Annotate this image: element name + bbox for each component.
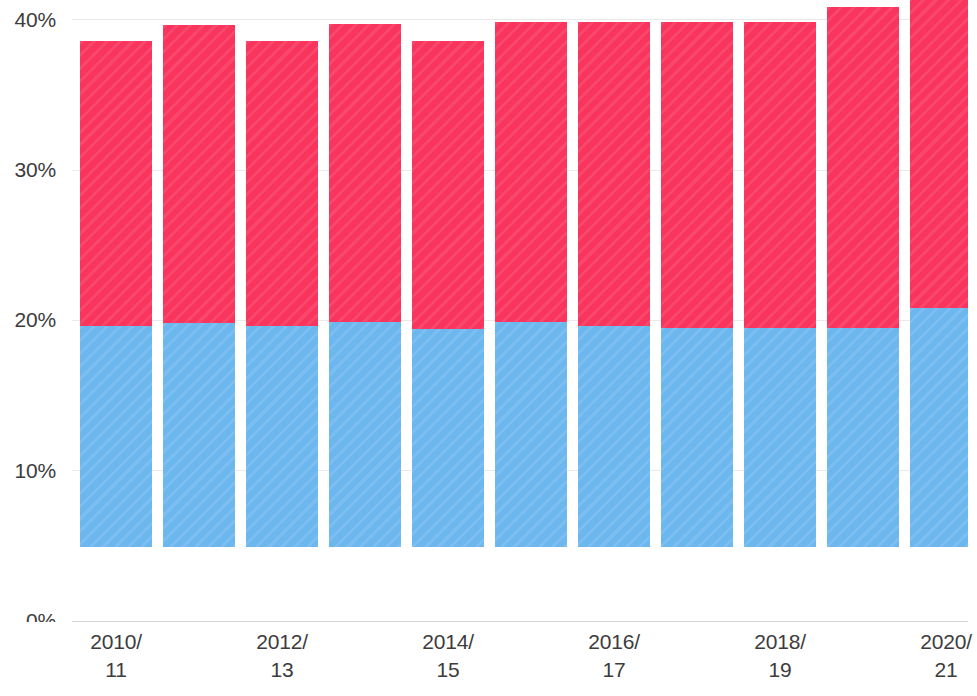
bar-segment-upper[interactable]	[246, 41, 318, 327]
x-axis: 2010/112012/132014/152016/172018/192020/…	[0, 622, 968, 696]
x-axis-tick-label-line1: 2020/	[920, 630, 972, 653]
bar-2015-16[interactable]	[495, 22, 567, 547]
bar-segment-lower[interactable]	[661, 328, 733, 547]
bar-segment-lower[interactable]	[910, 308, 968, 547]
bar-segment-lower[interactable]	[827, 328, 899, 547]
bar-2012-13[interactable]	[246, 41, 318, 548]
plot-area: 0%10%20%30%40%	[0, 0, 968, 622]
bar-segment-upper[interactable]	[163, 25, 235, 323]
bar-segment-lower[interactable]	[495, 322, 567, 547]
bar-segment-upper[interactable]	[910, 0, 968, 308]
x-axis-tick-label-line2: 21	[886, 656, 977, 684]
x-axis-tick-label-line2: 13	[222, 656, 342, 684]
bar-2011-12[interactable]	[163, 25, 235, 547]
x-axis-tick-label-line1: 2016/	[588, 630, 640, 653]
bar-segment-upper[interactable]	[744, 22, 816, 327]
bar-segment-lower[interactable]	[80, 326, 152, 547]
bar-2018-19[interactable]	[744, 22, 816, 547]
x-axis-tick-label-line2: 15	[388, 656, 508, 684]
bar-2014-15[interactable]	[412, 41, 484, 548]
bar-segment-upper[interactable]	[412, 41, 484, 330]
x-axis-tick-label-line2: 19	[720, 656, 840, 684]
bar-2017-18[interactable]	[661, 22, 733, 547]
x-axis-tick-label-line1: 2010/	[90, 630, 142, 653]
x-axis-tick-label-line1: 2018/	[754, 630, 806, 653]
x-axis-tick-label-line1: 2014/	[422, 630, 474, 653]
y-axis-tick-label: 40%	[0, 9, 56, 30]
bar-segment-upper[interactable]	[80, 41, 152, 327]
bar-segment-lower[interactable]	[578, 326, 650, 547]
x-axis-tick-label-line2: 17	[554, 656, 674, 684]
x-axis-tick-label: 2010/11	[56, 628, 176, 685]
x-axis-tick-label: 2020/21	[886, 628, 977, 685]
bar-segment-lower[interactable]	[329, 322, 401, 547]
bar-segment-upper[interactable]	[329, 24, 401, 322]
bar-2010-11[interactable]	[80, 41, 152, 548]
x-axis-tick-label-line1: 2012/	[256, 630, 308, 653]
bar-segment-lower[interactable]	[744, 328, 816, 547]
x-axis-tick-label: 2012/13	[222, 628, 342, 685]
bar-2013-14[interactable]	[329, 24, 401, 547]
y-axis-tick-label: 10%	[0, 460, 56, 481]
x-axis-tick-label: 2016/17	[554, 628, 674, 685]
bar-segment-lower[interactable]	[163, 323, 235, 547]
x-axis-tick-label: 2018/19	[720, 628, 840, 685]
y-axis-tick-label: 30%	[0, 159, 56, 180]
bar-segment-lower[interactable]	[246, 326, 318, 547]
y-axis-tick-label: 20%	[0, 309, 56, 330]
bar-segment-upper[interactable]	[827, 7, 899, 327]
bar-segment-upper[interactable]	[578, 22, 650, 326]
x-axis-tick-label: 2014/15	[388, 628, 508, 685]
bar-2020-21[interactable]	[910, 0, 968, 547]
bar-segment-upper[interactable]	[495, 22, 567, 321]
bar-2016-17[interactable]	[578, 22, 650, 547]
bar-segment-lower[interactable]	[412, 329, 484, 547]
bar-segment-upper[interactable]	[661, 22, 733, 327]
y-axis-tick-label: 0%	[0, 610, 56, 622]
bar-2019-20[interactable]	[827, 7, 899, 547]
x-axis-tick-label-line2: 11	[56, 656, 176, 684]
